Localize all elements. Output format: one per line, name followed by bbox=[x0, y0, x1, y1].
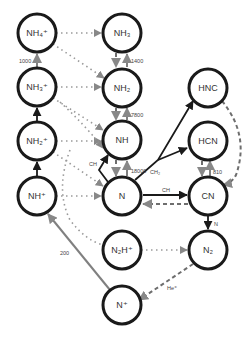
reaction-network-diagram: 1000 1400 7800 18000 CH₂ CH 810 N 200 He… bbox=[0, 0, 249, 342]
label-n: N bbox=[214, 221, 218, 227]
node-label: HNC bbox=[198, 83, 218, 93]
node-nh4p[interactable]: NH₄⁺ bbox=[18, 14, 56, 52]
label-1400: 1400 bbox=[131, 58, 143, 64]
edge-np-nhp bbox=[48, 214, 110, 290]
node-label: NH⁺ bbox=[28, 191, 46, 201]
node-label: N₂H⁺ bbox=[111, 245, 133, 255]
node-cn[interactable]: CN bbox=[189, 177, 227, 215]
node-nhp[interactable]: NH⁺ bbox=[18, 177, 56, 215]
edge-nh2p-n bbox=[53, 152, 103, 186]
node-label: NH₃ bbox=[114, 28, 131, 38]
edge-n-nh-ch bbox=[99, 155, 108, 182]
node-nh3[interactable]: NH₃ bbox=[103, 14, 141, 52]
label-ch2: CH₂ bbox=[150, 169, 160, 175]
label-7800: 7800 bbox=[131, 112, 143, 118]
nodes: NH₄⁺ NH₃ NH₃⁺ NH₂ NH₂⁺ NH NH⁺ N bbox=[18, 14, 227, 324]
node-nh[interactable]: NH bbox=[103, 121, 141, 159]
node-nh3p[interactable]: NH₃⁺ bbox=[18, 68, 56, 106]
edge-n2-np bbox=[139, 264, 193, 300]
node-label: HCN bbox=[198, 136, 218, 146]
node-label: NH₄⁺ bbox=[26, 28, 48, 38]
node-n[interactable]: N bbox=[103, 177, 141, 215]
label-18000: 18000 bbox=[131, 168, 146, 174]
label-ch-small: CH bbox=[89, 161, 97, 167]
node-label: NH₃⁺ bbox=[26, 82, 48, 92]
node-nh2[interactable]: NH₂ bbox=[103, 69, 141, 107]
node-np[interactable]: N⁺ bbox=[103, 286, 141, 324]
node-label: NH₂⁺ bbox=[26, 136, 48, 146]
node-label: NH₂ bbox=[114, 83, 131, 93]
label-810: 810 bbox=[213, 169, 222, 175]
node-label: N₂ bbox=[203, 245, 213, 255]
node-label: CN bbox=[202, 191, 215, 201]
edge-nh4p-nh2 bbox=[53, 44, 104, 78]
node-nh2p[interactable]: NH₂⁺ bbox=[18, 122, 56, 160]
node-hcn[interactable]: HCN bbox=[189, 122, 227, 160]
label-1000: 1000 bbox=[19, 58, 31, 64]
label-200: 200 bbox=[60, 250, 69, 256]
node-hnc[interactable]: HNC bbox=[189, 69, 227, 107]
node-n2hp[interactable]: N₂H⁺ bbox=[103, 231, 141, 269]
label-ch: CH bbox=[162, 187, 170, 193]
node-label: N⁺ bbox=[116, 300, 128, 310]
label-he-plus: He⁺ bbox=[167, 285, 177, 291]
node-label: NH bbox=[116, 135, 129, 145]
node-label: N bbox=[119, 191, 126, 201]
node-n2[interactable]: N₂ bbox=[189, 231, 227, 269]
